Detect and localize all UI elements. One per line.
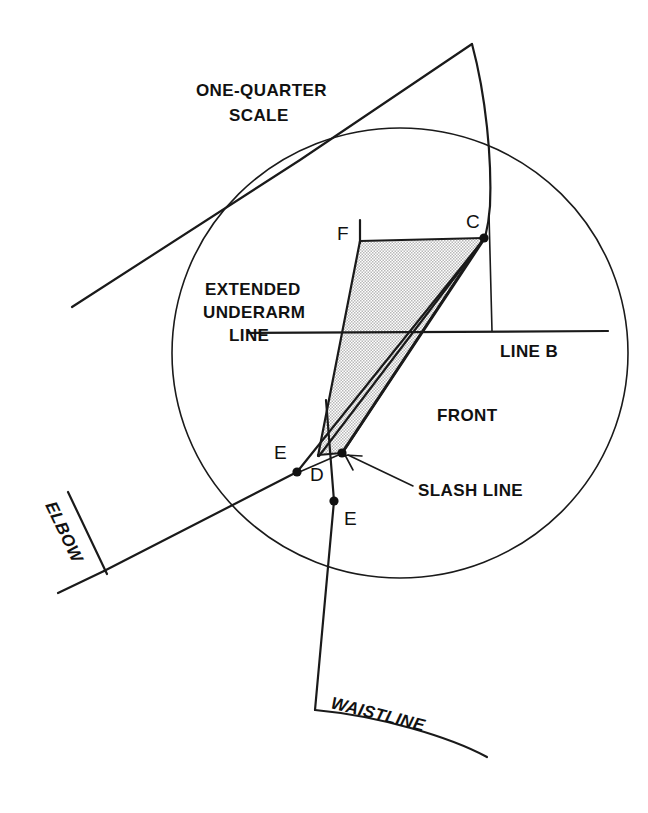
label-underarm: UNDERARM: [203, 303, 305, 322]
diagram-canvas: ONE-QUARTER SCALE EXTENDED UNDERARM LINE…: [0, 0, 648, 813]
line-b-horizontal: [248, 331, 608, 333]
elbow-construction-line: [104, 472, 297, 571]
label-waistline: WAISTLINE: [329, 693, 427, 735]
point-label-c: C: [466, 211, 480, 232]
point-e-lower-dot: [329, 496, 338, 505]
vertical-drop-line: [489, 214, 492, 331]
point-label-e-lower: E: [344, 508, 357, 529]
pattern-drafting-illustration: ONE-QUARTER SCALE EXTENDED UNDERARM LINE…: [0, 0, 648, 813]
pivot-dot: [337, 448, 346, 457]
point-label-d: D: [310, 464, 324, 485]
point-c-dot: [479, 233, 488, 242]
slash-line-leader: [348, 455, 413, 486]
label-underarm-line-word: LINE: [229, 326, 269, 345]
label-one-quarter: ONE-QUARTER: [196, 81, 327, 100]
elbow-line-tail: [58, 571, 104, 593]
point-e-left-dot: [292, 467, 301, 476]
point-label-f: F: [337, 223, 349, 244]
label-front: FRONT: [437, 406, 498, 425]
label-slash-line: SLASH LINE: [418, 481, 523, 500]
label-extended: EXTENDED: [205, 280, 301, 299]
label-elbow: ELBOW: [41, 499, 87, 567]
label-line-b: LINE B: [500, 342, 558, 361]
label-scale: SCALE: [229, 106, 289, 125]
point-label-e-left: E: [274, 442, 287, 463]
